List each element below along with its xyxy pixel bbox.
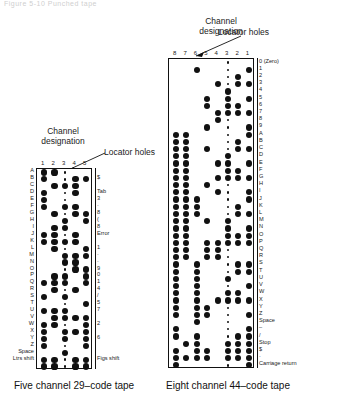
punch-hole — [173, 175, 179, 181]
punch-hole — [173, 297, 179, 303]
punch-hole — [41, 357, 47, 363]
tape-row-label-right: 4 — [97, 286, 100, 292]
punch-hole — [173, 348, 179, 354]
punch-hole — [246, 269, 252, 275]
locator-hole — [227, 98, 229, 100]
punch-hole — [246, 355, 252, 361]
punch-hole — [183, 153, 189, 159]
locator-hole — [227, 256, 229, 258]
tape-row-label-right: L — [259, 210, 262, 216]
tape-row-label-right: O — [259, 232, 263, 238]
punch-hole — [72, 239, 78, 245]
punch-hole — [215, 240, 221, 246]
punch-hole — [183, 189, 189, 195]
punch-hole — [41, 204, 47, 210]
tape-row-label-right: ( — [97, 217, 99, 223]
locator-hole — [227, 314, 229, 316]
punch-hole — [83, 253, 89, 259]
tape-row-label-right: 9 — [259, 123, 262, 129]
punch-hole — [215, 81, 221, 87]
punch-hole — [246, 362, 252, 368]
punch-hole — [41, 169, 47, 175]
locator-hole — [227, 335, 229, 337]
punch-hole — [51, 169, 57, 175]
punch-hole — [246, 261, 252, 267]
left-tape-caption: Five channel 29–code tape — [14, 380, 134, 391]
locator-hole — [227, 285, 229, 287]
channel-number: 1 — [246, 50, 249, 56]
punch-hole — [51, 280, 57, 286]
locator-hole — [227, 134, 229, 136]
punch-hole — [246, 189, 252, 195]
tape-row-label-left: Y — [0, 335, 34, 341]
punch-hole — [246, 297, 252, 303]
tape-row-label-right: 3 — [259, 80, 262, 86]
punch-hole — [246, 67, 252, 73]
punch-hole — [246, 326, 252, 332]
punch-hole — [51, 357, 57, 363]
tape-row-label-right: 1 — [259, 66, 262, 72]
punch-hole — [246, 196, 252, 202]
punch-hole — [173, 218, 179, 224]
punch-hole — [83, 218, 89, 224]
punch-hole — [194, 261, 200, 267]
punch-hole — [51, 322, 57, 328]
top-text-fragment: Figure 5-10 Punched tape — [4, 0, 154, 9]
locator-hole — [227, 271, 229, 273]
punch-hole — [235, 211, 241, 217]
channel-number: 7 — [183, 50, 186, 56]
punch-hole — [83, 273, 89, 279]
punch-hole — [51, 232, 57, 238]
tape-row-label-right: Q — [259, 246, 263, 252]
punch-hole — [173, 240, 179, 246]
locator-hole — [64, 324, 66, 326]
tape-row-label-right: $ — [97, 175, 100, 181]
tape-row-label-right: 8 — [97, 210, 100, 216]
locator-hole — [64, 241, 66, 243]
tape-row-label-right: K — [259, 203, 263, 209]
locator-hole — [227, 184, 229, 186]
punch-hole — [235, 110, 241, 116]
punch-hole — [41, 322, 47, 328]
punch-hole — [194, 290, 200, 296]
punch-hole — [246, 341, 252, 347]
punch-hole — [51, 363, 57, 369]
locator-hole — [64, 282, 66, 284]
punch-hole — [183, 247, 189, 253]
tape-row-label-right: 5 — [97, 300, 100, 306]
locator-hole — [227, 170, 229, 172]
punch-hole — [246, 160, 252, 166]
punch-hole — [194, 276, 200, 282]
tape-row-label-right: 8 — [97, 224, 100, 230]
tape-row-label-right: – — [259, 325, 262, 331]
punch-hole — [183, 355, 189, 361]
tape-row-label-right: A — [259, 131, 263, 137]
punch-hole — [183, 240, 189, 246]
locator-hole — [64, 303, 66, 305]
punch-hole — [204, 182, 210, 188]
punch-hole — [246, 312, 252, 318]
tape-row-label-right: 5 — [259, 95, 262, 101]
punch-hole — [246, 233, 252, 239]
punch-hole — [83, 246, 89, 252]
left-right-label-rule — [95, 168, 96, 369]
locator-hole — [64, 338, 66, 340]
locator-hole — [64, 171, 66, 173]
punch-hole — [41, 343, 47, 349]
punch-hole — [194, 297, 200, 303]
tape-row-label-left: N — [0, 259, 34, 265]
left-tape-body — [36, 168, 92, 369]
punch-hole — [194, 67, 200, 73]
punch-hole — [83, 301, 89, 307]
channel-number: 2 — [52, 160, 55, 166]
punch-hole — [235, 240, 241, 246]
tape-row-label-right: · — [97, 203, 99, 209]
right-label-rule — [257, 58, 258, 368]
locator-hole — [64, 352, 66, 354]
punch-hole — [215, 160, 221, 166]
locator-hole — [227, 191, 229, 193]
punch-hole — [83, 266, 89, 272]
tape-row-label-right: Space — [259, 318, 275, 324]
punch-hole — [173, 312, 179, 318]
punch-hole — [51, 211, 57, 217]
